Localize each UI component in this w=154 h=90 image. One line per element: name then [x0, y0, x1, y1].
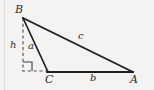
vertex-label-c: C — [45, 74, 53, 85]
altitude-label-h: h — [10, 40, 16, 50]
side-label-c: c — [78, 31, 84, 41]
vertex-label-a: A — [130, 74, 138, 85]
vertex-label-b: B — [15, 4, 23, 15]
side-label-b: b — [90, 73, 96, 83]
side-c-line — [23, 18, 133, 72]
side-a-line — [23, 18, 48, 72]
right-angle-square-icon — [23, 62, 32, 71]
side-label-a: a — [28, 41, 34, 51]
triangle-diagram-figure: B C A h a c b — [0, 0, 154, 90]
